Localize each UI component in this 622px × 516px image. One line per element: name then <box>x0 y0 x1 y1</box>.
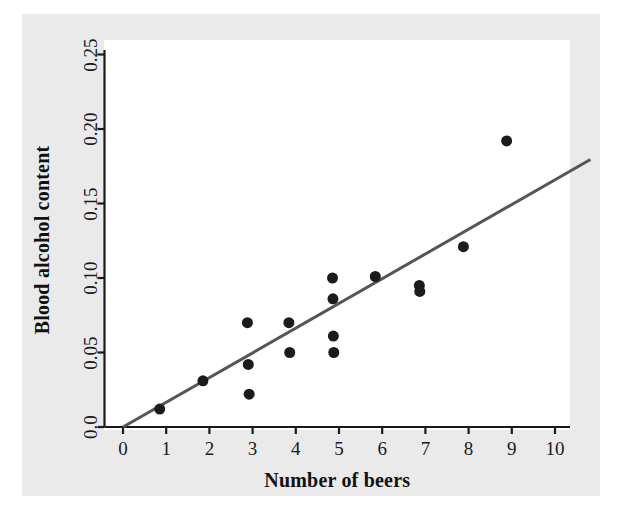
x-tick-label: 2 <box>192 438 226 460</box>
data-point <box>243 359 254 370</box>
data-point <box>283 317 294 328</box>
data-point <box>327 293 338 304</box>
x-tick-label: 9 <box>495 438 529 460</box>
y-tick-label: 0.05 <box>80 327 102 379</box>
axis-ticks <box>98 55 556 435</box>
y-tick-label: 0.0 <box>80 401 102 453</box>
data-point <box>244 389 255 400</box>
x-tick-label: 8 <box>452 438 486 460</box>
data-point <box>328 331 339 342</box>
y-tick-label: 0.15 <box>80 178 102 230</box>
x-tick-label: 10 <box>538 438 572 460</box>
data-point <box>458 241 469 252</box>
axes-lines <box>105 50 571 427</box>
x-axis-title: Number of beers <box>137 469 537 492</box>
data-point <box>370 271 381 282</box>
fit-line <box>123 160 590 427</box>
y-axis-title: Blood alcohol content <box>30 90 54 390</box>
y-tick-label: 0.10 <box>80 252 102 304</box>
data-point <box>242 317 253 328</box>
data-point <box>328 347 339 358</box>
y-tick-label: 0.20 <box>80 103 102 155</box>
x-tick-label: 0 <box>106 438 140 460</box>
x-tick-label: 1 <box>149 438 183 460</box>
data-point <box>327 273 338 284</box>
x-tick-label: 5 <box>322 438 356 460</box>
figure: 012345678910 0.00.050.100.150.200.25 Blo… <box>0 0 622 516</box>
y-tick-label: 0.25 <box>80 29 102 81</box>
data-points <box>154 135 512 414</box>
regression-line <box>123 160 590 427</box>
data-point <box>154 404 165 415</box>
x-tick-label: 6 <box>365 438 399 460</box>
data-point <box>197 375 208 386</box>
x-tick-label: 4 <box>279 438 313 460</box>
data-point <box>284 347 295 358</box>
data-point <box>501 135 512 146</box>
x-tick-label: 7 <box>408 438 442 460</box>
x-tick-label: 3 <box>236 438 270 460</box>
data-point <box>414 286 425 297</box>
